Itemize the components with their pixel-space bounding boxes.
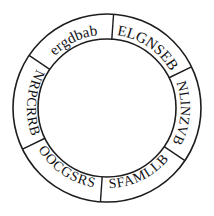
divider-upper-left <box>29 55 50 69</box>
outer-ring-circle <box>13 14 201 202</box>
wheel-svg: ELGNSEBNLINZVBSFAMLLBOOCGSRSNRPCRRBergdb… <box>0 0 214 216</box>
segment-oocgsrs-label: OOCGSRS <box>36 143 97 191</box>
segment-label-group: ELGNSEBNLINZVBSFAMLLBOOCGSRSNRPCRRBergdb… <box>24 22 193 191</box>
divider-top <box>112 14 114 39</box>
segment-divider-group <box>23 14 192 202</box>
segment-nrpcrrb-label: NRPCRRB <box>24 68 48 138</box>
divider-bottom <box>100 177 102 202</box>
wheel-diagram-canvas: ELGNSEBNLINZVBSFAMLLBOOCGSRSNRPCRRBergdb… <box>0 0 214 216</box>
segment-elgnseb-label: ELGNSEB <box>116 22 182 73</box>
